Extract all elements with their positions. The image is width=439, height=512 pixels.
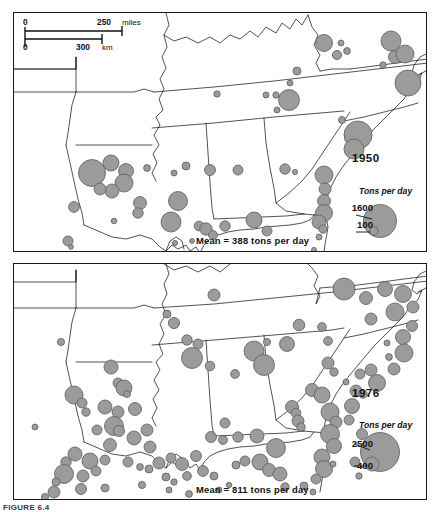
symbol-circle — [111, 218, 117, 224]
legend-title-1976: Tons per day — [359, 420, 412, 430]
symbol-circle — [292, 169, 297, 174]
symbol-circle — [316, 234, 322, 240]
symbol-circle — [182, 162, 190, 170]
symbol-circle — [198, 466, 209, 477]
symbol-circle — [182, 348, 203, 369]
figure-container: 0 250 miles 0 300 km 1950 1976 Tons per … — [0, 0, 439, 512]
scale-miles-zero: 0 — [23, 17, 28, 27]
figure-caption: FIGURE 6.4 — [3, 503, 50, 512]
symbol-circle — [386, 354, 393, 361]
symbol-circle — [310, 489, 316, 495]
symbol-circle — [273, 467, 287, 481]
year-label-1976: 1976 — [352, 387, 380, 399]
symbol-circle — [98, 400, 112, 414]
symbol-circle — [133, 208, 143, 218]
symbol-circle — [267, 439, 286, 458]
symbol-circle — [297, 423, 305, 431]
symbol-circle — [395, 344, 413, 362]
scale-km-unit: km — [102, 43, 113, 52]
symbol-circle — [345, 399, 360, 414]
symbol-circle — [407, 321, 418, 332]
symbol-circle — [32, 424, 38, 430]
symbol-circle — [232, 461, 240, 469]
symbol-circle — [137, 464, 144, 471]
legend-title-1950: Tons per day — [359, 186, 412, 196]
symbol-circle — [318, 323, 327, 332]
symbol-circle — [92, 425, 102, 435]
symbol-circle — [127, 431, 141, 445]
symbol-circle — [233, 432, 243, 442]
symbol-circle — [220, 418, 230, 428]
legend-value-small-1976: 400 — [339, 460, 373, 471]
symbol-circle — [144, 165, 151, 172]
symbol-circle — [208, 289, 220, 301]
symbol-circle — [214, 91, 220, 97]
symbol-circle — [210, 472, 218, 480]
symbol-circle — [166, 453, 176, 463]
symbol-circle — [144, 441, 156, 453]
symbol-circle — [94, 183, 106, 195]
symbol-circle — [360, 292, 373, 305]
symbol-circle — [330, 368, 338, 376]
symbol-circle — [219, 436, 228, 445]
symbol-circle — [319, 225, 327, 233]
symbol-circle — [314, 387, 330, 403]
symbol-circle — [134, 197, 147, 210]
symbol-circle — [339, 117, 346, 124]
symbol-circle — [100, 455, 110, 465]
legend-value-large-1950: 1600 — [343, 202, 373, 213]
symbol-circle — [280, 164, 290, 174]
symbol-circle — [82, 408, 90, 416]
symbol-circle — [69, 245, 74, 250]
symbol-circle — [233, 165, 243, 175]
symbol-circle — [279, 90, 300, 111]
symbol-circle — [190, 239, 195, 244]
symbol-circle — [48, 486, 60, 498]
symbol-circle — [324, 337, 333, 346]
symbol-circle — [77, 470, 89, 482]
symbol-circle — [388, 363, 400, 375]
symbol-circle — [344, 48, 351, 55]
symbol-circle — [141, 424, 153, 436]
symbol-circle — [182, 335, 192, 345]
symbol-circle — [145, 465, 153, 473]
symbol-circle — [254, 355, 275, 376]
symbol-circle — [52, 478, 60, 486]
symbol-circle — [166, 487, 172, 493]
symbol-circle — [101, 484, 109, 492]
symbol-circle — [77, 398, 87, 408]
symbol-circle — [330, 461, 336, 467]
symbol-circle — [293, 319, 305, 331]
symbol-circle — [138, 481, 145, 488]
legend-1976: Tons per day 2500 400 — [343, 420, 438, 486]
symbol-circle — [240, 456, 250, 466]
symbol-circle — [79, 160, 106, 187]
symbol-circle — [206, 432, 217, 443]
symbol-circle — [316, 35, 333, 52]
symbol-circle — [311, 474, 321, 484]
symbol-circle — [380, 62, 386, 68]
symbol-circle — [153, 457, 165, 469]
symbol-circle — [396, 45, 414, 63]
symbol-circle — [162, 473, 170, 481]
symbol-circle — [396, 330, 411, 345]
symbol-circle — [168, 317, 179, 328]
symbol-circle — [123, 457, 133, 467]
symbol-circle — [176, 458, 189, 471]
symbol-circle — [172, 240, 177, 245]
scale-km-value: 300 — [76, 42, 90, 52]
symbol-circle — [378, 282, 393, 297]
legend-value-small-1950: 100 — [343, 219, 373, 230]
symbol-circle — [205, 165, 216, 176]
symbol-circle — [274, 107, 280, 113]
symbol-circle — [280, 337, 295, 352]
mean-label-1950: Mean = 388 tons per day — [196, 235, 309, 246]
symbol-circle — [338, 40, 344, 46]
symbol-circle — [129, 403, 142, 416]
symbol-circle — [263, 92, 269, 98]
symbol-circle — [395, 286, 412, 303]
symbol-circle — [124, 391, 131, 398]
legend-value-large-1976: 2500 — [339, 438, 373, 449]
symbol-circle — [104, 360, 118, 374]
symbol-circle — [365, 313, 377, 325]
